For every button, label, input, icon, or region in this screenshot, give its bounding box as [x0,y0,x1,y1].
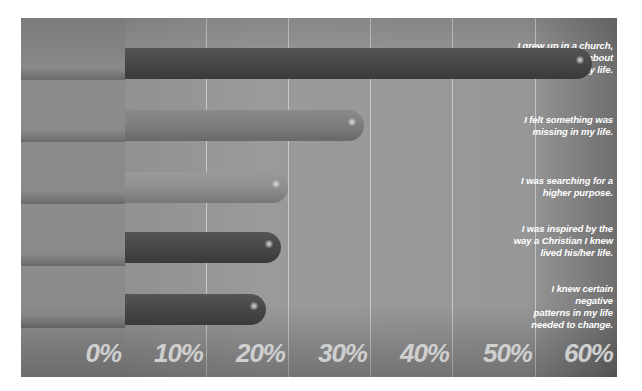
bar-label: I felt something was missing in my life. [513,114,613,138]
bar-highlight [265,240,273,248]
bar-something-missing [125,110,364,141]
label-line: I was inspired by the [513,223,613,235]
chart-panel: I grew up in a church, so I knew about C… [21,18,617,377]
bar-highlight [272,180,280,188]
label-line: I was searching for a [513,175,613,187]
label-line: patterns in my life [513,307,613,319]
label-line: needed to change. [513,319,613,331]
label-line: lived his/her life. [513,247,613,259]
label-line: missing in my life. [513,126,613,138]
bar-label: I knew certain negative patterns in my l… [513,283,613,331]
bar-label: I was searching for a higher purpose. [513,175,613,199]
bar-highlight [250,302,258,310]
x-tick-40: 40% [369,338,449,369]
x-tick-10: 10% [123,338,203,369]
label-line: I felt something was [513,114,613,126]
bar-inspired-by-christian [125,232,281,263]
x-tick-20: 20% [205,338,285,369]
label-line: I knew certain negative [513,283,613,307]
x-tick-60: 60% [533,338,613,369]
bar-grew-up-in-church [125,48,592,79]
bar-label: I was inspired by the way a Christian I … [513,223,613,259]
x-tick-0: 0% [41,338,121,369]
bar-higher-purpose [125,172,288,203]
x-tick-50: 50% [452,338,532,369]
bar-negative-patterns [125,294,266,325]
label-line: higher purpose. [513,187,613,199]
label-line: way a Christian I knew [513,235,613,247]
bar-highlight [348,118,356,126]
x-tick-30: 30% [287,338,367,369]
bar-highlight [576,56,584,64]
